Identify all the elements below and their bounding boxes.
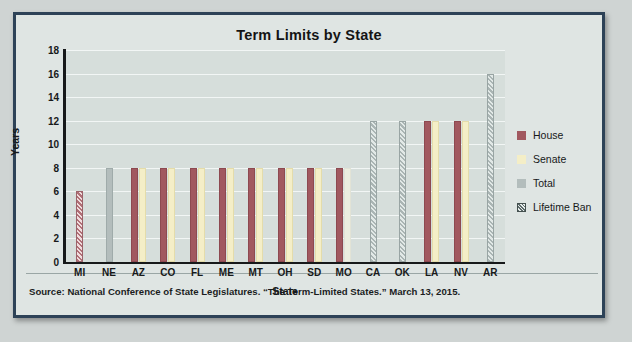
x-axis-tick-label-mo: MO — [329, 267, 358, 278]
bar-az-house — [131, 168, 138, 262]
x-axis-tick-label-sd: SD — [300, 267, 329, 278]
bar-ne-total — [106, 168, 113, 262]
y-axis-tick-label: 16 — [19, 68, 59, 79]
bar-ar-lifetime-ban — [487, 74, 494, 262]
y-axis-tick-label: 12 — [19, 115, 59, 126]
y-axis-tick-label: 2 — [19, 233, 59, 244]
x-axis-tick-label-co: CO — [153, 267, 182, 278]
legend-item-senate[interactable]: Senate — [517, 147, 602, 171]
x-axis-tick-label-fl: FL — [182, 267, 211, 278]
y-axis-line — [63, 49, 66, 263]
plot-wrap — [65, 50, 505, 262]
x-axis-tick-label-ca: CA — [358, 267, 387, 278]
bar-la-house — [424, 121, 431, 262]
bar-az-senate — [139, 168, 146, 262]
bar-mt-senate — [256, 168, 263, 262]
bar-co-senate — [168, 168, 175, 262]
y-axis-tick-label: 6 — [19, 186, 59, 197]
bar-ok-lifetime-ban — [399, 121, 406, 262]
bar-nv-house — [454, 121, 461, 262]
y-axis-tick-label: 14 — [19, 92, 59, 103]
source-note: Source: National Conference of State Leg… — [29, 286, 460, 297]
legend-item-house[interactable]: House — [517, 123, 602, 147]
legend-swatch-icon — [517, 179, 526, 188]
legend-item-label: Senate — [533, 153, 566, 165]
chart-legend: HouseSenateTotalLifetime Ban — [517, 123, 602, 219]
x-axis-tick-label-nv: NV — [446, 267, 475, 278]
bar-fl-senate — [198, 168, 205, 262]
chart-title: Term Limits by State — [16, 27, 602, 43]
plot-area — [65, 50, 505, 262]
bar-sd-senate — [315, 168, 322, 262]
bar-la-senate — [432, 121, 439, 262]
y-axis-tick-label: 10 — [19, 139, 59, 150]
x-axis-tick-label-ok: OK — [388, 267, 417, 278]
y-axis-tick-label: 4 — [19, 209, 59, 220]
gridline — [65, 50, 505, 51]
bar-oh-senate — [286, 168, 293, 262]
x-axis-line — [63, 262, 505, 264]
x-axis-tick-label-me: ME — [212, 267, 241, 278]
x-axis-tick-label-az: AZ — [124, 267, 153, 278]
y-axis-tick-label: 0 — [19, 257, 59, 268]
bar-oh-house — [278, 168, 285, 262]
legend-swatch-icon — [517, 131, 526, 140]
bar-mi-lifetime-ban — [76, 191, 83, 262]
x-axis-tick-label-mt: MT — [241, 267, 270, 278]
bar-mo-senate — [344, 168, 351, 262]
legend-swatch-icon — [517, 203, 526, 212]
figure-frame: Term Limits by State Years State HouseSe… — [13, 12, 605, 318]
bar-me-house — [219, 168, 226, 262]
bar-me-senate — [227, 168, 234, 262]
legend-item-label: Lifetime Ban — [533, 201, 591, 213]
y-axis-tick-label: 18 — [19, 45, 59, 56]
gridline — [65, 97, 505, 98]
x-axis-tick-label-oh: OH — [270, 267, 299, 278]
x-axis-tick-label-ne: NE — [94, 267, 123, 278]
bar-mt-house — [248, 168, 255, 262]
bar-mo-house — [336, 168, 343, 262]
bar-ca-lifetime-ban — [370, 121, 377, 262]
x-axis-tick-label-la: LA — [417, 267, 446, 278]
bar-fl-house — [190, 168, 197, 262]
legend-swatch-icon — [517, 155, 526, 164]
bar-nv-senate — [462, 121, 469, 262]
legend-item-label: House — [533, 129, 563, 141]
x-axis-tick-label-ar: AR — [476, 267, 505, 278]
legend-item-total[interactable]: Total — [517, 171, 602, 195]
bar-sd-house — [307, 168, 314, 262]
legend-item-lifetime-ban[interactable]: Lifetime Ban — [517, 195, 602, 219]
gridline — [65, 74, 505, 75]
x-axis-tick-label-mi: MI — [65, 267, 94, 278]
y-axis-tick-label: 8 — [19, 162, 59, 173]
legend-item-label: Total — [533, 177, 555, 189]
bar-co-house — [160, 168, 167, 262]
